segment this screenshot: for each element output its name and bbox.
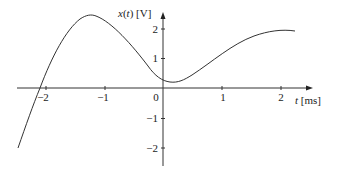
x-tick-label: 2: [278, 91, 284, 103]
y-tick-label: −1: [146, 112, 158, 124]
x-axis-arrow-icon: [306, 86, 313, 91]
y-axis-label: x(t) [V]: [117, 7, 151, 20]
y-axis-arrow-icon: [161, 12, 166, 19]
x-tick-label: −1: [97, 91, 109, 103]
y-tick-label: −2: [146, 142, 158, 154]
y-tick-label: 2: [153, 23, 159, 35]
origin-label: 0: [153, 91, 159, 103]
y-tick-label: 1: [153, 52, 159, 64]
x-tick-label: 1: [220, 91, 226, 103]
chart: −2 −1 0 1 2 2 1 −1 −2 x(t) [V] t [ms]: [0, 0, 340, 171]
x-axis-label: t [ms]: [295, 94, 321, 106]
x-tick-label: −2: [37, 91, 49, 103]
